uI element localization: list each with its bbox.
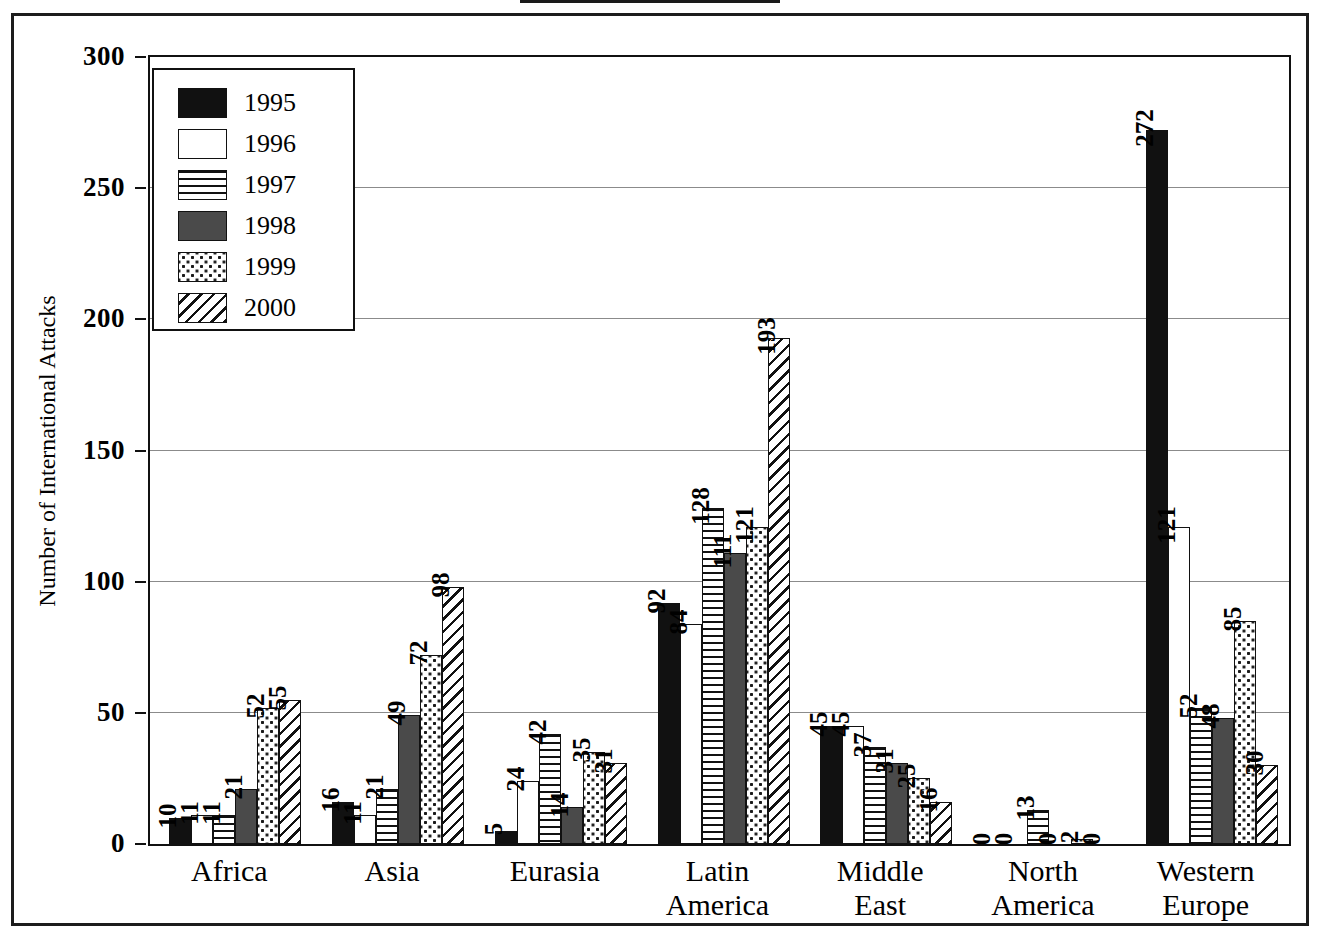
bar-2000[interactable]: 193 [768,338,790,844]
bar-1995[interactable]: 45 [820,726,842,844]
bar-1997[interactable]: 21 [376,789,398,844]
bar-2000[interactable]: 30 [1256,765,1278,844]
x-axis-label-latin-america: LatinAmerica [636,854,799,921]
legend-item-1998[interactable]: 1998 [178,205,353,246]
legend-swatch-2000 [178,293,227,323]
bar-value-label: 0 [1079,833,1104,846]
bar-1995[interactable]: 5 [495,831,517,844]
legend-label-1995: 1995 [244,90,296,116]
bar-value-label: 272 [1132,110,1157,148]
bar-2000[interactable]: 55 [279,700,301,844]
bar-1996[interactable]: 84 [680,624,702,844]
y-tick-300 [135,56,146,58]
bar-2000[interactable]: 31 [605,763,627,844]
bar-value-label: 72 [406,641,431,666]
bar-value-label: 121 [1154,506,1179,544]
y-tick-50 [135,712,146,714]
bar-1995[interactable]: 272 [1146,130,1168,844]
bar-1996[interactable]: 24 [517,781,539,844]
bar-1999[interactable]: 72 [420,655,442,844]
y-tick-250 [135,187,146,189]
x-axis-label-western-europe: WesternEurope [1124,854,1287,921]
bar-value-label: 84 [666,609,691,634]
bar-value-label: 128 [688,487,713,525]
cropped-title-sliver [0,0,1320,8]
bar-1999[interactable]: 85 [1234,621,1256,844]
bar-1998[interactable]: 48 [1212,718,1234,844]
y-tick-label-300: 300 [35,43,125,70]
bar-value-label: 11 [199,801,224,825]
bar-value-label: 193 [754,317,779,355]
legend[interactable]: 199519961997199819992000 [152,68,355,331]
y-tick-0 [135,843,146,845]
bar-1997[interactable]: 42 [539,734,561,844]
legend-swatch-1998 [178,211,227,241]
bar-value-label: 85 [1220,607,1245,632]
bar-1998[interactable]: 14 [561,807,583,844]
y-tick-200 [135,318,146,320]
legend-swatch-1996 [178,129,227,159]
bar-value-label: 25 [894,764,919,789]
legend-swatch-1999 [178,252,227,282]
x-axis-label-middle-east: MiddleEast [799,854,962,921]
legend-label-1997: 1997 [244,172,296,198]
bar-value-label: 11 [340,801,365,825]
bar-1998[interactable]: 21 [235,789,257,844]
bar-group-middle-east: 454537312516 [820,57,952,844]
bar-2000[interactable]: 98 [442,587,464,844]
chart-page: 1011112152551611214972985244214353192841… [0,0,1320,940]
x-axis-label-asia: Asia [311,854,474,888]
legend-swatch-1995 [178,88,227,118]
bar-group-north-america: 0013020 [983,57,1115,844]
bar-value-label: 31 [591,748,616,773]
legend-label-2000: 2000 [244,295,296,321]
y-tick-100 [135,581,146,583]
bar-1998[interactable]: 49 [398,715,420,844]
bar-value-label: 24 [503,767,528,792]
legend-item-1997[interactable]: 1997 [178,164,353,205]
legend-label-1996: 1996 [244,131,296,157]
bar-1999[interactable]: 52 [257,708,279,844]
y-tick-label-0: 0 [35,830,125,857]
x-axis-label-africa: Africa [148,854,311,888]
bar-value-label: 0 [991,833,1016,846]
legend-item-1999[interactable]: 1999 [178,246,353,287]
bar-value-label: 121 [732,506,757,544]
bar-value-label: 21 [362,774,387,799]
bar-value-label: 21 [221,774,246,799]
bar-group-western-europe: 27212152488530 [1146,57,1278,844]
bar-value-label: 48 [1198,704,1223,729]
legend-item-1996[interactable]: 1996 [178,123,353,164]
x-axis-label-eurasia: Eurasia [473,854,636,888]
legend-label-1998: 1998 [244,213,296,239]
legend-swatch-1997 [178,170,227,200]
bar-value-label: 14 [547,793,572,818]
bar-1998[interactable]: 111 [724,553,746,844]
y-tick-label-250: 250 [35,174,125,201]
bar-group-eurasia: 52442143531 [495,57,627,844]
bar-value-label: 30 [1242,751,1267,776]
bar-group-latin-america: 9284128111121193 [658,57,790,844]
bar-value-label: 49 [384,701,409,726]
bar-value-label: 55 [265,685,290,710]
bar-1996[interactable]: 11 [354,815,376,844]
bar-1997[interactable]: 11 [213,815,235,844]
bar-1996[interactable]: 121 [1168,527,1190,844]
bar-value-label: 98 [428,572,453,597]
legend-item-1995[interactable]: 1995 [178,82,353,123]
bar-1995[interactable]: 92 [658,603,680,844]
bar-value-label: 5 [481,823,506,836]
legend-item-2000[interactable]: 2000 [178,287,353,328]
y-axis-title: Number of International Attacks [34,241,61,661]
x-axis-label-north-america: NorthAmerica [962,854,1125,921]
bar-value-label: 16 [916,788,941,813]
y-tick-150 [135,450,146,452]
bar-1999[interactable]: 121 [746,527,768,844]
bar-value-label: 13 [1013,795,1038,820]
y-tick-label-50: 50 [35,699,125,726]
bar-2000[interactable]: 16 [930,802,952,844]
bar-value-label: 42 [525,719,550,744]
legend-label-1999: 1999 [244,254,296,280]
